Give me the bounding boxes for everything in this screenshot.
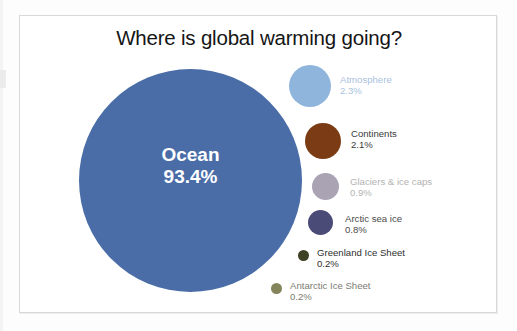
bubble-ocean[interactable]	[79, 69, 302, 292]
scan-mark-artifact	[0, 70, 6, 88]
legend-percent-antarctic-ice-sheet: 0.2%	[290, 291, 371, 302]
legend-percent-greenland-ice-sheet: 0.2%	[317, 258, 405, 269]
legend-label-arctic-sea-ice: Arctic sea ice	[345, 213, 402, 224]
legend-text-glaciers-ice-caps: Glaciers & ice caps 0.9%	[350, 176, 432, 199]
bubble-antarctic-ice-sheet[interactable]	[271, 283, 282, 294]
legend-percent-atmosphere: 2.3%	[340, 85, 392, 96]
bubble-continents[interactable]	[305, 123, 341, 159]
bubble-chart-plot: Ocean 93.4% Atmosphere 2.3% Continents 2…	[20, 16, 498, 314]
legend-label-antarctic-ice-sheet: Antarctic Ice Sheet	[290, 280, 371, 291]
legend-text-continents: Continents 2.1%	[351, 128, 397, 151]
legend-text-greenland-ice-sheet: Greenland Ice Sheet 0.2%	[317, 247, 405, 270]
legend-label-continents: Continents	[351, 128, 397, 139]
legend-percent-arctic-sea-ice: 0.8%	[345, 224, 402, 235]
legend-text-atmosphere: Atmosphere 2.3%	[340, 74, 392, 97]
bubble-atmosphere[interactable]	[289, 65, 331, 107]
bubble-greenland-ice-sheet[interactable]	[298, 250, 309, 261]
bubble-arctic-sea-ice[interactable]	[308, 210, 333, 235]
legend-label-atmosphere: Atmosphere	[340, 74, 392, 85]
legend-label-glaciers-ice-caps: Glaciers & ice caps	[350, 176, 432, 187]
bubble-glaciers-ice-caps[interactable]	[312, 173, 339, 200]
legend-percent-glaciers-ice-caps: 0.9%	[350, 187, 432, 198]
legend-text-arctic-sea-ice: Arctic sea ice 0.8%	[345, 213, 402, 236]
scan-edge-artifact	[0, 0, 3, 331]
legend-label-greenland-ice-sheet: Greenland Ice Sheet	[317, 247, 405, 258]
screenshot-root: Where is global warming going? Ocean 93.…	[0, 0, 517, 331]
legend-percent-continents: 2.1%	[351, 139, 397, 150]
figure-card: Where is global warming going? Ocean 93.…	[19, 15, 497, 313]
legend-text-antarctic-ice-sheet: Antarctic Ice Sheet 0.2%	[290, 280, 371, 303]
